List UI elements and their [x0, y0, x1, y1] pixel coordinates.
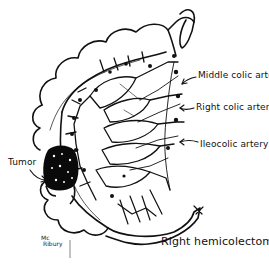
colon-mesentery-drawing [0, 0, 269, 267]
label-tumor: Tumor [8, 158, 36, 167]
lymph-nodes [70, 54, 180, 198]
figure-caption: Right hemicolectomy [161, 236, 269, 247]
tumor-mass [43, 146, 78, 191]
signature-line-2: Ribury [43, 241, 62, 247]
arrow-ileocolic [180, 141, 198, 143]
label-middle-colic-artery: Middle colic artery [198, 71, 269, 80]
colic-arteries [120, 62, 180, 190]
right-hemicolectomy-illustration: Middle colic artery Right colic artery I… [0, 0, 269, 267]
label-ileocolic-artery: Ileocolic artery [200, 140, 268, 149]
label-right-colic-artery: Right colic artery [196, 103, 269, 112]
transverse-colon-outline [40, 18, 194, 106]
ascending-colon-outline [33, 105, 42, 150]
arrow-middle-colic [182, 77, 196, 84]
transected-end-upper [180, 10, 194, 48]
mesenteric-arcades [66, 52, 184, 200]
artist-signature: Mc Ribury [41, 235, 62, 247]
